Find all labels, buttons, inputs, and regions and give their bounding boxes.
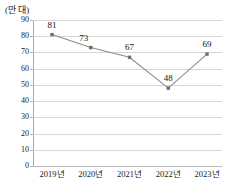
y-axis-tick-mark (30, 117, 33, 118)
y-axis-tick-mark (30, 20, 33, 21)
y-axis-tick-mark (30, 101, 33, 102)
y-axis-tick-mark (30, 134, 33, 135)
y-axis-tick-label: 90 (3, 16, 29, 24)
plot-area: 8173674869 (33, 20, 222, 166)
x-axis-line (33, 166, 222, 167)
x-axis-tick-label: 2021년 (117, 170, 142, 179)
data-point-label: 69 (203, 40, 212, 49)
y-axis-tick-label: 10 (3, 146, 29, 154)
y-axis-tick-mark (30, 85, 33, 86)
y-axis-tick-mark (30, 166, 33, 167)
y-axis-tick-label: 50 (3, 81, 29, 89)
chart-figure: (만 대) 9080706050403020100 8173674869 201… (0, 0, 239, 194)
x-axis-tick-labels: 2019년2020년2021년2022년2023년 (33, 170, 222, 188)
x-axis-tick-label: 2020년 (78, 170, 103, 179)
x-axis-tick-label: 2019년 (40, 170, 65, 179)
y-axis-tick-mark (30, 69, 33, 70)
data-point-label: 81 (48, 21, 57, 30)
y-axis-tick-labels: 9080706050403020100 (0, 20, 29, 166)
data-point-marker (205, 52, 208, 55)
data-point-marker (128, 56, 131, 59)
y-axis-tick-label: 80 (3, 32, 29, 40)
y-axis-tick-mark (30, 150, 33, 151)
data-point-label: 67 (125, 43, 134, 52)
y-axis-tick-label: 60 (3, 65, 29, 73)
data-point-marker (167, 86, 170, 89)
x-axis-tick-label: 2023년 (195, 170, 220, 179)
data-point-label: 48 (164, 74, 173, 83)
y-axis-tick-label: 40 (3, 97, 29, 105)
y-axis-tick-label: 30 (3, 113, 29, 121)
y-axis-tick-label: 20 (3, 130, 29, 138)
x-axis-tick-label: 2022년 (156, 170, 181, 179)
y-axis-tick-mark (30, 36, 33, 37)
data-point-marker (89, 46, 92, 49)
y-axis-tick-label: 0 (3, 162, 29, 170)
data-point-label: 73 (79, 34, 88, 43)
data-point-marker (50, 33, 53, 36)
y-axis-tick-mark (30, 52, 33, 53)
y-axis-tick-label: 70 (3, 48, 29, 56)
